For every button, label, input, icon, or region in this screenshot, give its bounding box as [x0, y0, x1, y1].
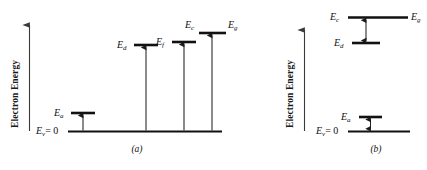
panel-a-axis-label: Electron Energy	[10, 60, 20, 128]
panel-a-caption: (a)	[131, 144, 142, 155]
panel-a-level-ed-label: Ed	[116, 39, 127, 52]
panel-b-level-ec-label: Ec	[329, 11, 340, 24]
panel-a-level-eg-label: Eg	[227, 19, 238, 32]
panel-a-level-ef-label: Ef	[155, 36, 165, 49]
panel-b-caption: (b)	[370, 144, 381, 155]
panel-a: Electron Energy Ev= 0 Ea Ed Ef	[10, 19, 238, 155]
panel-a-level-ea-label: Ea	[53, 107, 64, 120]
energy-level-figure: Electron Energy Ev= 0 Ea Ed Ef	[0, 0, 427, 170]
panel-b-level-ed-label: Ed	[333, 37, 344, 50]
panel-b-axis-label: Electron Energy	[285, 60, 295, 128]
panel-b-baseline-label: Ev= 0	[315, 125, 338, 138]
panel-a-baseline-label: Ev= 0	[35, 125, 58, 138]
panel-b: Electron Energy Ev= 0 Ea Ed Ec	[285, 11, 421, 155]
panel-a-level-ec-label: Ec	[184, 19, 195, 32]
panel-b-level-ea-label: Ea	[340, 111, 351, 124]
panel-b-level-eg-label: Eg	[410, 11, 421, 24]
